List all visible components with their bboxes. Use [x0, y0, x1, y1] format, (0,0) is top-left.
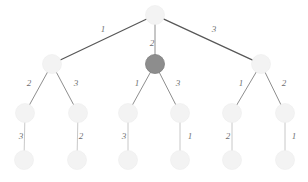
node-level3-5[interactable] — [223, 151, 242, 170]
node-level2-4[interactable] — [171, 104, 190, 123]
edges-layer — [24, 18, 285, 152]
node-level2-5[interactable] — [223, 104, 242, 123]
edge-l1c-l2e — [236, 71, 257, 106]
node-level1-right[interactable] — [252, 55, 271, 74]
edge-l2a-l3a — [24, 121, 25, 152]
node-level3-4[interactable] — [171, 151, 190, 170]
edge-l2b-l3b — [77, 121, 78, 152]
node-level2-3[interactable] — [119, 104, 138, 123]
node-level3-2[interactable] — [68, 151, 87, 170]
edge-l1c-l2f — [265, 71, 282, 106]
tree-diagram-canvas — [0, 0, 308, 182]
node-level3-6[interactable] — [276, 151, 295, 170]
edge-l1b-l2c — [132, 71, 151, 106]
edge-l1a-l2a — [29, 71, 48, 106]
node-level3-1[interactable] — [15, 151, 34, 170]
edge-root-right — [162, 18, 253, 60]
node-level2-6[interactable] — [276, 104, 295, 123]
edge-root-left — [59, 18, 148, 60]
node-level1-left[interactable] — [43, 55, 62, 74]
node-root[interactable] — [146, 6, 165, 25]
node-level2-1[interactable] — [16, 104, 35, 123]
tree-diagram: 123231312323121 — [0, 0, 308, 182]
edge-l1b-l2d — [159, 71, 177, 106]
node-level1-middle[interactable] — [146, 55, 165, 74]
node-level2-2[interactable] — [69, 104, 88, 123]
node-level3-3[interactable] — [119, 151, 138, 170]
edge-l1a-l2b — [56, 71, 75, 106]
